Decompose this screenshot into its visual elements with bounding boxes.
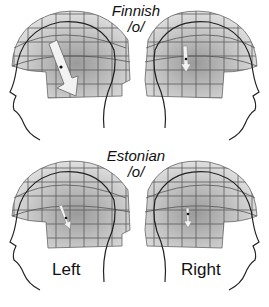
face-profile: [10, 222, 40, 290]
face-profile: [229, 222, 259, 290]
title-language: Estonian: [98, 148, 174, 164]
label-right-hemisphere: Right: [181, 260, 221, 280]
face-profile: [10, 72, 40, 140]
meg-figure: Finnish /o/ Estonian /o/ Left Right: [0, 0, 269, 307]
face-profile: [229, 72, 259, 140]
title-vowel: /o/: [98, 164, 174, 180]
label-left-hemisphere: Left: [52, 260, 80, 280]
title-vowel: /o/: [104, 19, 168, 35]
title-finnish: Finnish /o/: [104, 3, 168, 35]
title-estonian: Estonian /o/: [98, 148, 174, 180]
title-language: Finnish: [104, 3, 168, 19]
